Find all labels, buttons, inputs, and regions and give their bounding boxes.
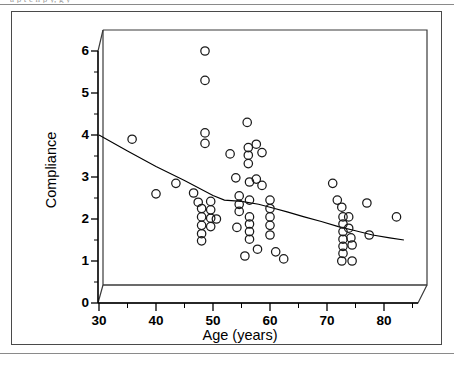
data-point-marker — [207, 206, 215, 214]
data-point-marker — [235, 192, 243, 200]
y-tick-label: 5 — [71, 85, 89, 100]
y-tick-label: 3 — [71, 169, 89, 184]
data-point-marker — [233, 223, 241, 231]
data-point-marker — [266, 231, 274, 239]
y-tick-label: 0 — [71, 295, 89, 310]
data-points — [128, 47, 401, 265]
data-point-marker — [172, 179, 180, 187]
data-point-marker — [252, 140, 260, 148]
x-tick-label: 60 — [255, 313, 285, 328]
left-wall-outline — [98, 30, 103, 303]
data-point-marker — [258, 181, 266, 189]
y-tick-label: 6 — [71, 43, 89, 58]
y-axis-ticks — [91, 51, 98, 303]
x-tick-label: 50 — [198, 313, 228, 328]
scatter-plot — [0, 0, 454, 367]
x-tick-label: 80 — [369, 313, 399, 328]
data-point-marker — [201, 76, 209, 84]
data-point-marker — [244, 159, 252, 167]
data-point-marker — [241, 252, 249, 260]
data-point-marker — [266, 213, 274, 221]
data-point-marker — [201, 129, 209, 137]
data-point-marker — [207, 197, 215, 205]
data-point-marker — [212, 215, 220, 223]
data-point-marker — [232, 174, 240, 182]
back-panel-outline — [103, 30, 427, 285]
data-point-marker — [266, 221, 274, 229]
data-point-marker — [201, 139, 209, 147]
data-point-marker — [272, 248, 280, 256]
y-tick-label: 1 — [71, 253, 89, 268]
data-point-marker — [280, 255, 288, 263]
data-point-marker — [128, 135, 136, 143]
data-point-marker — [152, 190, 160, 198]
data-point-marker — [258, 148, 266, 156]
x-axis-ticks — [99, 303, 413, 311]
data-point-marker — [392, 213, 400, 221]
page-rule-bottom — [0, 353, 454, 354]
data-point-marker — [363, 199, 371, 207]
data-point-marker — [243, 118, 251, 126]
x-axis-title: Age (years) — [150, 327, 330, 343]
y-axis-title: Compliance — [43, 110, 59, 230]
data-point-marker — [266, 196, 274, 204]
x-tick-label: 70 — [312, 313, 342, 328]
data-point-marker — [197, 213, 205, 221]
data-point-marker — [348, 257, 356, 265]
data-point-marker — [338, 203, 346, 211]
data-point-marker — [207, 222, 215, 230]
y-tick-label: 4 — [71, 127, 89, 142]
axes-3d-walls — [98, 30, 427, 303]
x-tick-label: 40 — [141, 313, 171, 328]
figure-root: a p t e n p y, g y — [0, 0, 454, 367]
data-point-marker — [201, 47, 209, 55]
y-tick-label: 2 — [71, 211, 89, 226]
x-tick-label: 30 — [84, 313, 114, 328]
data-point-marker — [253, 245, 261, 253]
data-point-marker — [189, 189, 197, 197]
data-point-marker — [345, 213, 353, 221]
floor-outline — [98, 285, 427, 303]
data-point-marker — [329, 179, 337, 187]
data-point-marker — [197, 221, 205, 229]
data-point-marker — [226, 150, 234, 158]
